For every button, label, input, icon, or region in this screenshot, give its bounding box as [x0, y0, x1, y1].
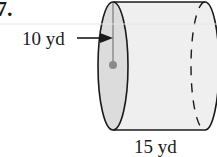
cylinder-diagram [0, 0, 217, 157]
center-dot [109, 61, 117, 69]
